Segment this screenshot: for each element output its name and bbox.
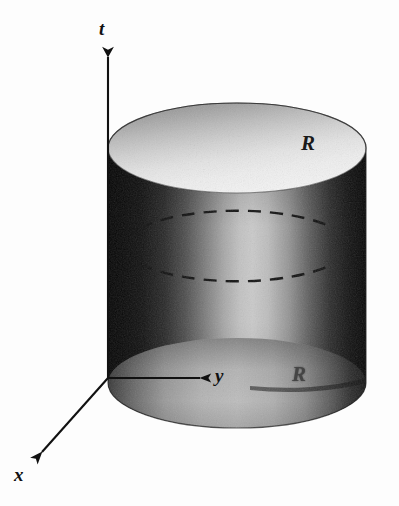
cylinder-solid — [100, 95, 380, 435]
paper-grain — [100, 95, 380, 435]
radius-label-top: R — [301, 133, 315, 154]
y-axis-label: y — [215, 366, 223, 385]
x-axis-label: x — [14, 465, 24, 484]
time-axis-label: t — [99, 19, 104, 38]
cylinder-figure: t y x R R — [0, 0, 399, 506]
cylinder-diagram-canvas — [0, 0, 399, 506]
x-axis-line — [42, 378, 108, 452]
radius-label-bottom: R — [292, 364, 306, 385]
